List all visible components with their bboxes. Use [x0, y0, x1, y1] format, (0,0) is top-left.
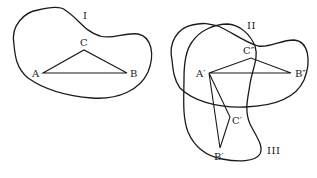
point-b-double-prime-label: B″ — [295, 68, 306, 79]
region-i-label: I — [83, 10, 87, 21]
region-ii-label: II — [247, 20, 256, 31]
triangle-abc — [43, 50, 127, 73]
point-a-label: A — [31, 68, 40, 79]
triangle-a-prime-b-prime-c-prime — [209, 73, 230, 148]
region-ii-outline — [171, 23, 308, 107]
point-b-prime-label: B′ — [214, 151, 224, 162]
triangle-a-prime-b-dprime-c-dprime — [209, 58, 291, 73]
congruence-diagram: I A B C II III A′ B″ C″ C′ B′ — [0, 0, 317, 178]
region-iii-label: III — [267, 145, 280, 156]
point-c-prime-label: C′ — [232, 115, 243, 126]
point-c-double-prime-label: C″ — [243, 45, 255, 56]
point-a-prime-label: A′ — [195, 68, 206, 79]
point-c-label: C — [80, 37, 88, 48]
point-b-label: B — [130, 68, 137, 79]
